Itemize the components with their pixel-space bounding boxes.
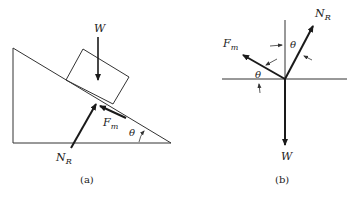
caption-b: (b) (275, 174, 289, 185)
weight-label: W (281, 150, 294, 163)
normal-force-label: NR (314, 7, 331, 22)
weight-label: W (94, 22, 107, 35)
normal-force-arrow (285, 26, 313, 79)
figure-b: W NR Fm θ θ (b) (222, 7, 347, 185)
caption-a: (a) (80, 174, 94, 185)
friction-arrow (243, 55, 285, 79)
angle-marker-top (270, 45, 282, 46)
normal-force-arrow (71, 104, 96, 148)
normal-force-label: NR (55, 151, 72, 166)
diagram-canvas: W NR Fm θ (a) W NR Fm (0, 0, 352, 198)
angle-arc (139, 131, 144, 142)
friction-label: Fm (222, 37, 239, 52)
angle-label-bottom: θ (255, 69, 261, 80)
angle-marker-friction (266, 59, 277, 65)
angle-marker-bottom (259, 84, 260, 93)
angle-label: θ (129, 127, 135, 138)
angle-marker-normal (304, 56, 312, 60)
figure-a: W NR Fm θ (a) (13, 22, 171, 185)
angle-label-top: θ (290, 39, 296, 50)
friction-label: Fm (102, 116, 119, 131)
incline-wedge (13, 48, 171, 143)
